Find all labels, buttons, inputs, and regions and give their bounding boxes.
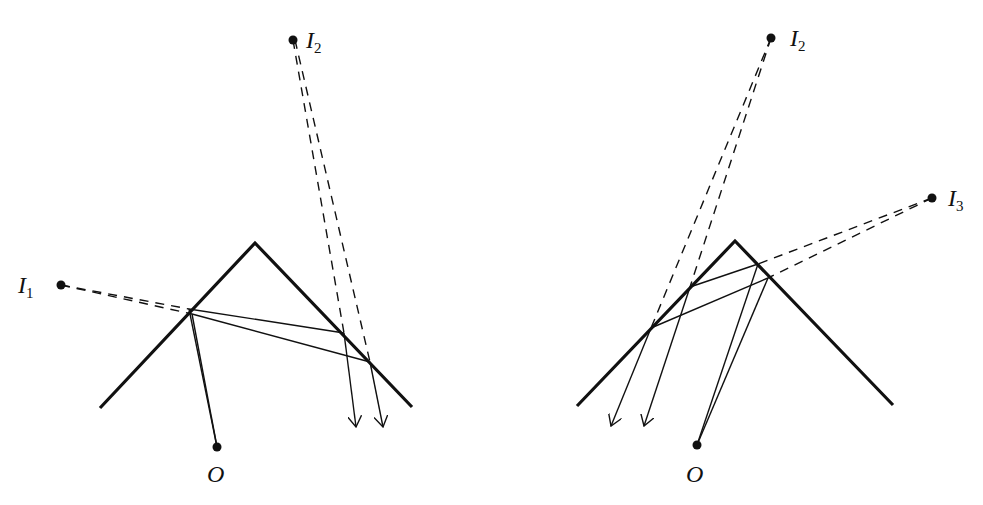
virtual-ray-from-i2 bbox=[295, 40, 370, 362]
virtual-ray-from-i2 bbox=[690, 38, 771, 287]
right-panel-mirror-pair bbox=[577, 241, 893, 406]
mirror-reflection-diagram bbox=[0, 0, 983, 505]
left-label-observer: O bbox=[207, 462, 224, 486]
right-panel-points bbox=[693, 34, 937, 450]
left-panel-mirror-pair bbox=[100, 243, 412, 408]
virtual-ray-from-i3 bbox=[758, 198, 932, 264]
image-point-i2 bbox=[289, 36, 298, 45]
ray-observer-to-mirror bbox=[697, 264, 758, 445]
left-label-image-1: I1 bbox=[18, 273, 34, 301]
left-label-image-2: I2 bbox=[306, 28, 322, 56]
right-panel bbox=[577, 34, 937, 450]
ray-observer-to-mirror bbox=[192, 314, 217, 447]
image-point-i1 bbox=[57, 281, 66, 290]
observer-point bbox=[213, 443, 222, 452]
right-label-image-3: I3 bbox=[948, 186, 964, 214]
outgoing-ray-arrow bbox=[611, 328, 651, 426]
left-panel bbox=[57, 36, 413, 452]
right-panel-real-rays bbox=[611, 264, 768, 445]
image-point-i2 bbox=[767, 34, 776, 43]
right-label-image-2: I2 bbox=[790, 26, 806, 54]
virtual-ray-from-i3 bbox=[768, 198, 932, 278]
observer-point bbox=[693, 441, 702, 450]
image-point-i3 bbox=[928, 194, 937, 203]
outgoing-ray-arrow bbox=[644, 287, 690, 426]
left-panel-real-rays bbox=[189, 309, 383, 447]
ray-between-mirrors bbox=[192, 314, 370, 362]
right-label-observer: O bbox=[686, 462, 703, 486]
figure-canvas: I2 I1 O I2 I3 O bbox=[0, 0, 983, 505]
virtual-ray-from-i1 bbox=[61, 285, 192, 314]
left-panel-points bbox=[57, 36, 298, 452]
